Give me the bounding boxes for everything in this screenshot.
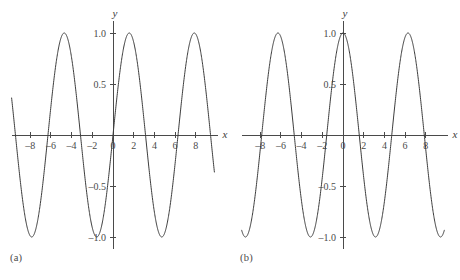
y-axis-name: y (342, 7, 348, 19)
x-tick-label: 2 (361, 140, 366, 151)
x-tick-label: 2 (131, 140, 136, 151)
plot-b-canvas: –8–6–4–2024681.00.5–0.5–1.0xy (230, 0, 460, 250)
figure-container: –8–6–4–2024681.00.5–0.5–1.0xy (a) –8–6–4… (0, 0, 460, 280)
x-axis-name: x (221, 128, 227, 140)
panel-b-caption: (b) (240, 252, 253, 263)
x-tick-label: 4 (382, 140, 387, 151)
x-tick-label: –8 (254, 140, 265, 151)
y-tick-label: 1.0 (94, 28, 107, 39)
plot-a-canvas: –8–6–4–2024681.00.5–0.5–1.0xy (0, 0, 230, 250)
plot-panel-a: –8–6–4–2024681.00.5–0.5–1.0xy (a) (0, 0, 230, 280)
x-tick-label: 6 (403, 140, 408, 151)
plot-panel-b: –8–6–4–2024681.00.5–0.5–1.0xy (b) (230, 0, 460, 280)
x-tick-label: 8 (193, 140, 198, 151)
y-tick-label: –0.5 (318, 181, 337, 192)
x-tick-label: –8 (24, 140, 35, 151)
x-tick-label: 0 (341, 140, 346, 151)
x-tick-label: –4 (66, 140, 77, 151)
y-tick-label: 0.5 (94, 79, 107, 90)
x-tick-label: –4 (296, 140, 307, 151)
y-axis-name: y (112, 7, 118, 19)
y-tick-label: –1.0 (318, 232, 337, 243)
y-tick-label: –0.5 (88, 181, 107, 192)
y-tick-label: 1.0 (324, 28, 337, 39)
x-tick-label: 4 (152, 140, 157, 151)
y-tick-label: 0.5 (324, 79, 337, 90)
panel-a-caption: (a) (10, 252, 22, 263)
x-tick-label: –2 (86, 140, 97, 151)
x-axis-name: x (451, 128, 457, 140)
x-tick-label: –6 (275, 140, 286, 151)
